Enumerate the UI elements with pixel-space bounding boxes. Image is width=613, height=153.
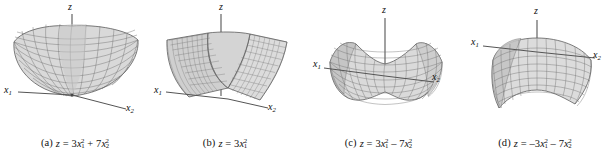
panel-b-x1-axis-label: x1	[154, 84, 162, 96]
panel-b-z-axis-label: z	[219, 1, 223, 12]
panel-a-surface	[14, 24, 138, 96]
panel-c-surface	[330, 43, 442, 105]
quadratic-surfaces-figure: z x1 x2 (a)z = 3x12 + 7x22	[0, 0, 613, 153]
panel-a-caption: (a)z = 3x12 + 7x22	[0, 137, 150, 149]
panel-b: z x1 x2 (b)z = 3x12	[150, 0, 300, 153]
panel-a-x1-axis-label: x1	[4, 84, 12, 96]
panel-b-caption: (b)z = 3x12	[150, 137, 300, 149]
panel-a: z x1 x2 (a)z = 3x12 + 7x22	[0, 0, 150, 153]
panel-b-surface	[167, 32, 287, 100]
panel-d-z-axis-label: z	[534, 5, 538, 16]
panel-a-z-axis-label: z	[68, 1, 72, 12]
panel-d-x1-axis-label: x1	[471, 36, 479, 48]
panel-d-plot	[457, 0, 613, 130]
panel-d-caption: (d)z = –3x12 – 7x22	[457, 137, 613, 149]
panel-b-plot	[150, 0, 300, 130]
panel-d: z x1 x2 (d)z = –3x12 – 7x22	[457, 0, 613, 153]
panel-c-x2-axis-label: x2	[432, 71, 440, 83]
panel-c-caption: (c)z = 3x12 – 7x22	[300, 137, 457, 149]
panel-c-x1-axis-label: x1	[313, 58, 321, 70]
panel-b-x2-axis-label: x2	[268, 101, 276, 113]
panel-a-x2-axis-label: x2	[126, 102, 134, 114]
panel-a-caption-label: (a)	[41, 137, 53, 148]
panel-a-x2-axis	[72, 95, 126, 109]
panel-b-x2-axis	[228, 99, 268, 108]
panel-c-z-axis-label: z	[382, 4, 386, 15]
panel-d-x2-axis-label: x2	[593, 49, 601, 61]
panel-c-caption-label: (c)	[345, 137, 357, 148]
panel-c: z x1 x2 (c)z = 3x12 – 7x22	[300, 0, 457, 153]
panel-b-caption-label: (b)	[203, 137, 216, 148]
panel-c-plot	[300, 0, 457, 130]
panel-d-caption-label: (d)	[498, 137, 511, 148]
